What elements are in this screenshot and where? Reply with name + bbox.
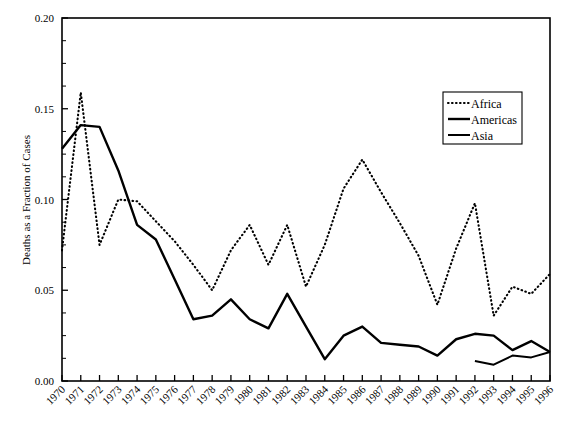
x-tick-label: 1979	[212, 383, 236, 407]
legend-label-asia: Asia	[471, 129, 494, 143]
legend-label-africa: Africa	[471, 97, 502, 111]
x-tick-label: 1980	[231, 383, 255, 407]
x-tick-label: 1983	[287, 383, 311, 407]
x-tick-label: 1975	[137, 383, 161, 407]
line-chart: 0.000.050.100.150.20 1970197119721973197…	[0, 0, 562, 425]
x-tick-label: 1981	[250, 383, 274, 407]
x-tick-label: 1987	[362, 383, 386, 407]
y-tick-label: 0.20	[35, 12, 55, 24]
x-tick-label: 1984	[306, 383, 330, 407]
x-tick-label: 1990	[419, 383, 443, 407]
y-tick-label: 0.10	[35, 194, 55, 206]
y-tick-label: 0.05	[35, 284, 55, 296]
x-tick-label: 1978	[194, 383, 218, 407]
x-tick-label: 1982	[269, 383, 293, 407]
x-tick-label: 1992	[456, 383, 480, 407]
legend-label-americas: Americas	[471, 113, 517, 127]
chart-legend: AfricaAmericasAsia	[443, 92, 522, 144]
x-tick-label: 1995	[513, 383, 537, 407]
x-tick-label: 1991	[438, 383, 462, 407]
chart-container: 0.000.050.100.150.20 1970197119721973197…	[0, 0, 562, 425]
x-tick-label: 1986	[344, 383, 368, 407]
y-tick-label: 0.15	[35, 103, 55, 115]
x-tick-label: 1988	[381, 383, 405, 407]
x-tick-label: 1972	[81, 383, 105, 407]
x-tick-label: 1993	[475, 383, 499, 407]
series-line-americas	[62, 125, 550, 359]
x-tick-label: 1996	[531, 383, 555, 407]
series-line-asia	[475, 352, 550, 365]
x-tick-label: 1994	[494, 383, 518, 407]
x-tick-label: 1974	[118, 383, 142, 407]
x-tick-label: 1971	[62, 383, 86, 407]
y-axis-label: Deaths as a Fraction of Cases	[20, 135, 32, 265]
x-tick-label: 1976	[156, 383, 180, 407]
x-axis-ticks: 1970197119721973197419751976197719781979…	[43, 375, 555, 407]
x-tick-label: 1985	[325, 383, 349, 407]
x-tick-label: 1973	[100, 383, 124, 407]
y-axis-ticks: 0.000.050.100.150.20	[35, 12, 68, 387]
x-tick-label: 1977	[175, 383, 199, 407]
y-tick-label: 0.00	[35, 375, 55, 387]
x-tick-label: 1989	[400, 383, 424, 407]
